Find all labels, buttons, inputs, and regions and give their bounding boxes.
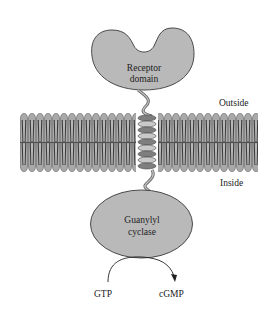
inside-label: Inside bbox=[220, 179, 243, 189]
cgmp-label: cGMP bbox=[159, 290, 184, 300]
enzyme-label-line1: Guanylyl bbox=[110, 216, 174, 226]
transmembrane-helix bbox=[138, 115, 156, 169]
reaction-arrow bbox=[108, 257, 174, 282]
receptor-label-line1: Receptor bbox=[112, 64, 176, 74]
receptor-label-line2: domain bbox=[112, 75, 176, 85]
outside-label: Outside bbox=[219, 99, 249, 109]
enzyme-label-line2: cyclase bbox=[110, 228, 174, 238]
gtp-label: GTP bbox=[94, 290, 112, 300]
arrowhead-icon bbox=[171, 274, 177, 282]
diagram-canvas bbox=[0, 0, 273, 320]
